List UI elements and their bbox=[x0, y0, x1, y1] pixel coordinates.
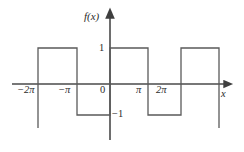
plot-canvas bbox=[0, 0, 244, 152]
x-tick-label-minus-2pi: −2π bbox=[17, 85, 35, 96]
function-graph-figure: f(x) x −2π −π 0 π 2π 1 −1 bbox=[0, 0, 244, 152]
y-axis-label: f(x) bbox=[84, 11, 99, 22]
x-tick-label-2pi: 2π bbox=[156, 85, 167, 96]
x-tick-label-pi: π bbox=[136, 85, 141, 96]
x-axis-label: x bbox=[221, 89, 226, 100]
y-tick-label-one: 1 bbox=[99, 43, 104, 54]
x-tick-label-minus-pi: −π bbox=[58, 85, 70, 96]
origin-label: 0 bbox=[100, 85, 105, 96]
y-tick-label-minus-one: −1 bbox=[112, 109, 123, 120]
